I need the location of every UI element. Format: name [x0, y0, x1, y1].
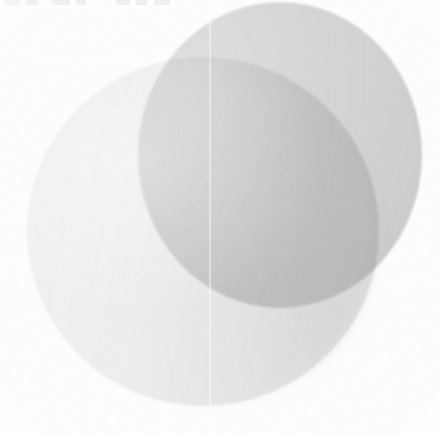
top-edge-artifact-mark [136, 0, 147, 5]
top-edge-artifact-mark [26, 0, 38, 5]
top-edge-artifact-mark [76, 0, 86, 5]
front-disc-shape [27, 57, 379, 406]
top-edge-artifact-mark [52, 0, 70, 5]
top-edge-artifact-mark [4, 0, 20, 5]
image-canvas [0, 0, 441, 434]
top-edge-artifact-mark [154, 0, 170, 5]
top-edge-artifacts [0, 0, 441, 7]
top-edge-artifact-mark [116, 0, 130, 5]
